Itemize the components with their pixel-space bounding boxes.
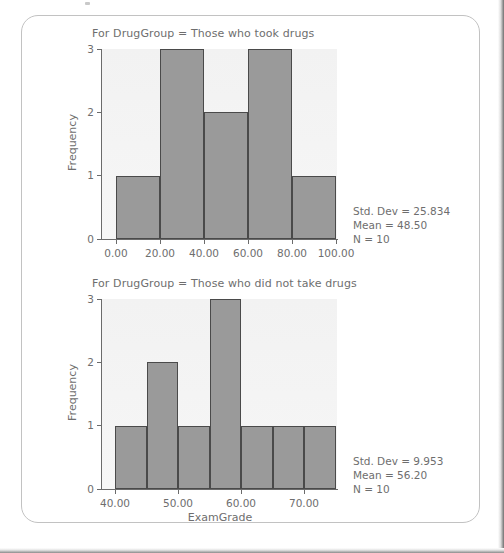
- stats-box-bottom: Std. Dev = 9.953 Mean = 56.20 N = 10: [353, 454, 443, 496]
- page-scan-right-edge: [498, 0, 504, 553]
- x-tick-label-bottom-3: 70.00: [274, 497, 334, 509]
- y-tick-top-3: [97, 49, 101, 50]
- y-tick-bottom-3: [97, 299, 101, 300]
- page-canvas: For DrugGroup = Those who took drugs 0 1…: [0, 0, 504, 553]
- bar-bottom-0: [115, 426, 147, 489]
- x-axis-title-bottom: ExamGrade: [160, 511, 280, 524]
- x-tick-top-2: [204, 240, 205, 244]
- stats-std-dev-top: Std. Dev = 25.834: [353, 204, 450, 218]
- x-tick-label-top-5: 100.00: [306, 247, 366, 259]
- stats-n-bottom: N = 10: [353, 482, 443, 496]
- page-scan-bottom-edge: [0, 548, 504, 553]
- chart-title-top: For DrugGroup = Those who took drugs: [92, 27, 314, 40]
- y-tick-bottom-0: [97, 489, 101, 490]
- chart-title-bottom: For DrugGroup = Those who did not take d…: [92, 277, 357, 290]
- stats-mean-top: Mean = 48.50: [353, 218, 450, 232]
- bar-top-2: [204, 112, 248, 239]
- x-tick-top-5: [336, 240, 337, 244]
- scan-artifact-speck: [85, 2, 90, 5]
- x-tick-top-3: [248, 240, 249, 244]
- x-tick-top-1: [160, 240, 161, 244]
- y-tick-top-0: [97, 239, 101, 240]
- y-tick-label-bottom-0: 0: [72, 483, 94, 495]
- y-tick-bottom-1: [97, 425, 101, 426]
- bar-top-1: [160, 49, 204, 239]
- y-axis-line-bottom: [101, 299, 102, 490]
- histogram-chart-bottom: For DrugGroup = Those who did not take d…: [22, 268, 481, 522]
- stats-box-top: Std. Dev = 25.834 Mean = 48.50 N = 10: [353, 204, 450, 246]
- y-tick-label-bottom-3: 3: [72, 293, 94, 305]
- stats-n-top: N = 10: [353, 232, 450, 246]
- y-tick-bottom-2: [97, 362, 101, 363]
- bar-bottom-2: [178, 426, 210, 489]
- histogram-chart-top: For DrugGroup = Those who took drugs 0 1…: [22, 18, 481, 268]
- bar-top-4: [292, 176, 336, 239]
- x-tick-bottom-2: [241, 490, 242, 494]
- x-tick-label-bottom-1: 50.00: [148, 497, 208, 509]
- bar-bottom-5: [273, 426, 305, 489]
- bar-bottom-6: [304, 426, 336, 489]
- y-axis-title-top: Frequency: [66, 98, 79, 188]
- x-axis-line-bottom: [101, 489, 338, 490]
- x-tick-bottom-0: [115, 490, 116, 494]
- bar-bottom-4: [241, 426, 273, 489]
- y-axis-title-bottom: Frequency: [66, 348, 79, 438]
- bar-bottom-1: [147, 362, 179, 489]
- x-tick-bottom-1: [178, 490, 179, 494]
- x-axis-line-top: [101, 239, 338, 240]
- y-tick-top-2: [97, 112, 101, 113]
- x-tick-top-0: [116, 240, 117, 244]
- x-tick-label-bottom-0: 40.00: [85, 497, 145, 509]
- x-tick-label-bottom-2: 60.00: [211, 497, 271, 509]
- stats-mean-bottom: Mean = 56.20: [353, 468, 443, 482]
- x-tick-bottom-3: [304, 490, 305, 494]
- y-tick-top-1: [97, 175, 101, 176]
- y-axis-line-top: [101, 49, 102, 240]
- stats-std-dev-bottom: Std. Dev = 9.953: [353, 454, 443, 468]
- spss-output-panel: For DrugGroup = Those who took drugs 0 1…: [21, 15, 480, 523]
- x-tick-top-4: [292, 240, 293, 244]
- bar-top-3: [248, 49, 292, 239]
- bar-top-0: [116, 176, 160, 239]
- bar-bottom-3: [210, 299, 242, 489]
- y-tick-label-top-3: 3: [72, 43, 94, 55]
- y-tick-label-top-0: 0: [72, 233, 94, 245]
